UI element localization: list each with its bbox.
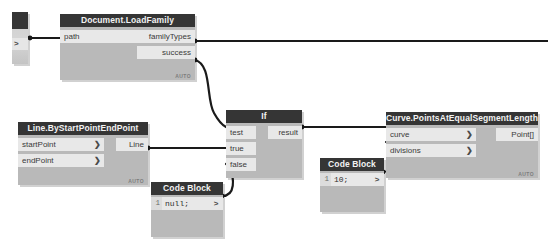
curve-points-at-equal-segment-length-node-auto-badge: AUTO [518, 171, 534, 177]
code-block-node-ten[interactable]: Code Block110;> [320, 158, 384, 212]
if-node-input-false[interactable]: false [226, 158, 256, 171]
wire-success-to-test[interactable] [195, 60, 226, 127]
document-load-family-node-header[interactable]: Document.LoadFamily [60, 14, 195, 27]
code-block-node-null-line-number: 1 [151, 197, 162, 210]
curve-points-at-equal-segment-length-node-input-divisions[interactable]: divisions❯ [386, 144, 476, 157]
chevron-right-icon[interactable]: ❯ [94, 138, 101, 151]
code-block-node-null-header[interactable]: Code Block [151, 182, 223, 195]
if-node-header[interactable]: If [226, 110, 302, 123]
file-path-node[interactable]: > [12, 12, 28, 64]
file-path-output-port[interactable]: > [12, 38, 28, 50]
document-load-family-node-body: path❯familyTypessuccessAUTO [60, 27, 195, 80]
if-node-input-label-true: true [230, 144, 244, 153]
line-by-start-point-end-point-node-input-endpoint[interactable]: endPoint❯ [18, 154, 104, 167]
code-block-node-ten-code-text[interactable]: 10; [331, 173, 348, 186]
chevron-right-icon[interactable]: ❯ [94, 154, 101, 167]
if-node-input-true[interactable]: true [226, 142, 256, 155]
document-load-family-node-output-success[interactable]: success [137, 46, 195, 59]
curve-points-at-equal-segment-length-node-input-label-curve: curve [390, 130, 410, 139]
curve-points-at-equal-segment-length-node-body: curve❯divisions❯Point[]AUTO [386, 125, 538, 178]
document-load-family-node[interactable]: Document.LoadFamilypath❯familyTypessucce… [60, 14, 195, 80]
line-by-start-point-end-point-node-header[interactable]: Line.ByStartPointEndPoint [18, 122, 148, 135]
if-node-input-label-test: test [230, 128, 243, 137]
code-block-node-ten-output-port[interactable]: > [370, 173, 384, 186]
line-by-start-point-end-point-node[interactable]: Line.ByStartPointEndPointstartPoint❯endP… [18, 122, 148, 185]
if-node-body: testtruefalseresult [226, 123, 302, 178]
if-node[interactable]: Iftesttruefalseresult [226, 110, 302, 178]
curve-points-at-equal-segment-length-node-header[interactable]: Curve.PointsAtEqualSegmentLength [386, 112, 538, 125]
line-by-start-point-end-point-node-input-startpoint[interactable]: startPoint❯ [18, 138, 104, 151]
document-load-family-node-output-familytypes[interactable]: familyTypes [137, 30, 195, 43]
code-block-node-null[interactable]: Code Block1null;> [151, 182, 223, 237]
chevron-right-icon[interactable]: ❯ [466, 144, 473, 157]
file-path-node-header [12, 12, 28, 29]
if-node-input-label-false: false [230, 160, 247, 169]
code-block-node-null-body: 1null;> [151, 195, 223, 237]
curve-points-at-equal-segment-length-node-input-curve[interactable]: curve❯ [386, 128, 476, 141]
if-node-input-test[interactable]: test [226, 126, 256, 139]
if-node-output-result[interactable]: result [268, 126, 302, 139]
code-block-node-ten-header[interactable]: Code Block [320, 158, 384, 171]
code-block-node-null-code-text[interactable]: null; [162, 197, 189, 210]
line-by-start-point-end-point-node-input-label-startpoint: startPoint [22, 140, 56, 149]
code-block-node-ten-body: 110;> [320, 171, 384, 212]
code-block-node-null-output-port[interactable]: > [209, 197, 223, 210]
curve-points-at-equal-segment-length-node-input-label-divisions: divisions [390, 146, 421, 155]
document-load-family-node-auto-badge: AUTO [175, 73, 191, 79]
line-by-start-point-end-point-node-auto-badge: AUTO [128, 178, 144, 184]
line-by-start-point-end-point-node-output-line[interactable]: Line [116, 138, 148, 151]
curve-points-at-equal-segment-length-node[interactable]: Curve.PointsAtEqualSegmentLengthcurve❯di… [386, 112, 538, 178]
code-block-node-ten-line-number: 1 [320, 173, 331, 186]
node-graph-canvas[interactable]: >Document.LoadFamilypath❯familyTypessucc… [0, 0, 548, 246]
line-by-start-point-end-point-node-body: startPoint❯endPoint❯LineAUTO [18, 135, 148, 185]
document-load-family-node-input-label-path: path [64, 32, 80, 41]
curve-points-at-equal-segment-length-node-output-point[interactable]: Point[] [496, 128, 538, 141]
wire-filepath-to-path-start-dot [28, 36, 33, 41]
chevron-right-icon[interactable]: ❯ [466, 128, 473, 141]
line-by-start-point-end-point-node-input-label-endpoint: endPoint [22, 156, 54, 165]
